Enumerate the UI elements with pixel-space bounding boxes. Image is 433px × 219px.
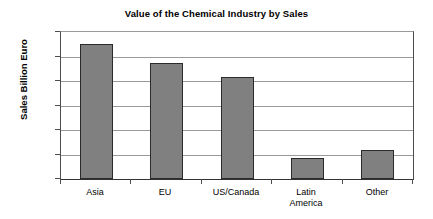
bar-chart: Value of the Chemical Industry by Sales …	[0, 0, 433, 219]
x-tick-label-line: Other	[342, 187, 412, 198]
x-tick-label: Other	[342, 187, 412, 198]
chart-title: Value of the Chemical Industry by Sales	[0, 8, 433, 19]
x-tick-label: US/Canada	[201, 187, 271, 198]
y-axis-title: Sales Billion Euro	[18, 25, 29, 135]
x-tick-label-line: Latin	[271, 187, 341, 198]
x-tick-label: EU	[130, 187, 200, 198]
x-tick-mark	[342, 179, 343, 184]
bar	[80, 44, 113, 179]
x-tick-mark	[271, 179, 272, 184]
gridline	[61, 57, 413, 58]
bar	[361, 150, 394, 179]
x-tick-mark	[201, 179, 202, 184]
bar	[150, 63, 183, 179]
x-tick-mark	[60, 179, 61, 184]
x-tick-label-line: America	[271, 198, 341, 209]
bar	[291, 158, 324, 179]
plot-area	[60, 31, 414, 180]
bar	[221, 77, 254, 179]
x-tick-label-line: EU	[130, 187, 200, 198]
x-tick-mark	[130, 179, 131, 184]
x-tick-label-line: US/Canada	[201, 187, 271, 198]
x-tick-label-line: Asia	[60, 187, 130, 198]
x-tick-mark	[412, 179, 413, 184]
x-tick-label: LatinAmerica	[271, 187, 341, 209]
x-tick-label: Asia	[60, 187, 130, 198]
